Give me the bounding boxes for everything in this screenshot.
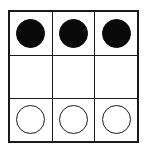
- filled-circle-icon: [102, 19, 131, 48]
- matrix-row-1: [10, 12, 137, 55]
- cell-content-r3c1: [10, 99, 52, 142]
- matrix-cell-r2c2[interactable]: [52, 55, 94, 98]
- matrix-row-3: [10, 98, 137, 141]
- matrix-row-2: [10, 55, 137, 98]
- matrix-cell-r1c2[interactable]: [52, 12, 94, 55]
- cell-content-r1c3: [95, 12, 137, 55]
- open-circle-icon: [59, 105, 88, 134]
- matrix-cell-r2c1[interactable]: [10, 55, 52, 98]
- cell-content-r3c3: [95, 99, 137, 142]
- cell-content-r2c3: [95, 56, 137, 98]
- filled-circle-icon: [59, 19, 88, 48]
- matrix-cell-r3c2[interactable]: [52, 98, 94, 141]
- matrix-cell-r2c3[interactable]: [95, 55, 137, 98]
- matrix-grid-body: [10, 12, 137, 141]
- cell-content-r1c2: [53, 12, 94, 55]
- cell-content-r2c2: [53, 56, 94, 98]
- shape-matrix-figure: [8, 10, 139, 143]
- filled-circle-icon: [16, 19, 45, 48]
- cell-content-r3c2: [53, 99, 94, 142]
- matrix-cell-r1c3[interactable]: [95, 12, 137, 55]
- matrix-grid: [10, 12, 137, 141]
- cell-content-r2c1: [10, 56, 52, 98]
- open-circle-icon: [16, 105, 45, 134]
- matrix-cell-r1c1[interactable]: [10, 12, 52, 55]
- matrix-cell-r3c1[interactable]: [10, 98, 52, 141]
- matrix-cell-r3c3[interactable]: [95, 98, 137, 141]
- open-circle-icon: [102, 105, 131, 134]
- cell-content-r1c1: [10, 12, 52, 55]
